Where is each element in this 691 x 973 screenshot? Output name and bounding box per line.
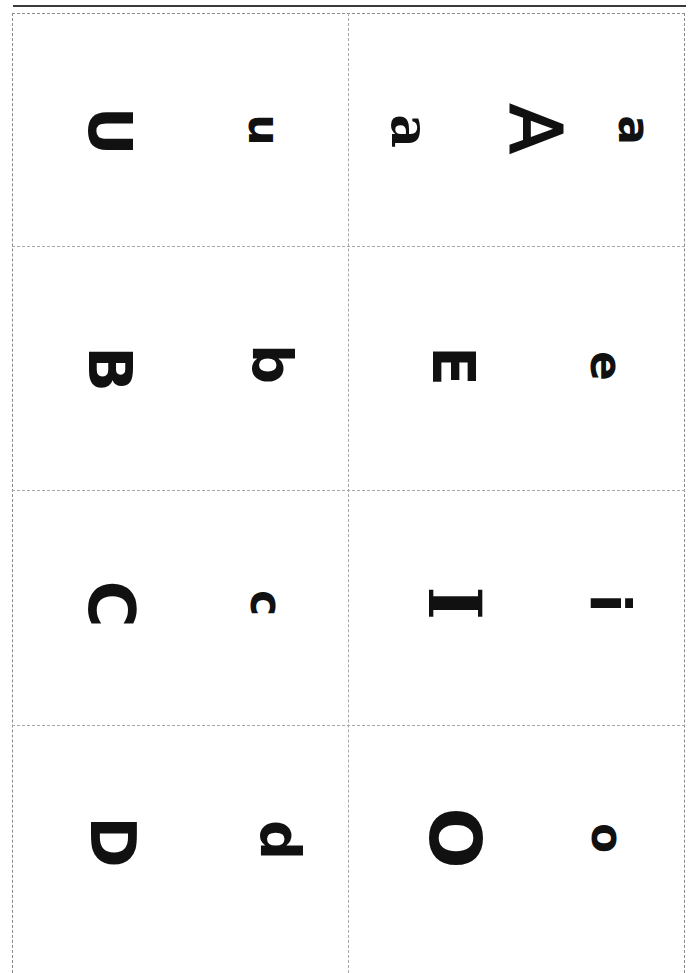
row-cut-line-2 <box>12 490 685 491</box>
glyph-lowercase-c: c <box>244 590 288 616</box>
row-cut-line-3 <box>12 725 685 726</box>
center-cut-line <box>348 13 349 973</box>
glyph-uppercase-c: C <box>79 581 143 628</box>
glyph-uppercase-d: D <box>81 816 143 867</box>
glyph-uppercase-u: U <box>80 107 140 156</box>
glyph-uppercase-b: B <box>80 346 140 392</box>
glyph-lowercase-u: u <box>242 114 286 145</box>
glyph-lowercase-o: o <box>585 823 629 853</box>
row-cut-line-1 <box>12 246 685 247</box>
glyph-uppercase-a: A <box>500 104 572 153</box>
glyph-uppercase-i: I <box>418 586 490 620</box>
glyph-lowercase-a: a <box>612 115 656 145</box>
top-rule <box>13 5 686 7</box>
glyph-lowercase-a-serif: a <box>384 114 436 148</box>
glyph-lowercase-i: i <box>582 593 638 612</box>
glyph-lowercase-d: d <box>252 820 308 860</box>
glyph-lowercase-e: e <box>584 351 628 381</box>
glyph-uppercase-e: E <box>424 346 482 386</box>
glyph-uppercase-o: O <box>419 807 491 868</box>
glyph-lowercase-b: b <box>244 344 300 384</box>
